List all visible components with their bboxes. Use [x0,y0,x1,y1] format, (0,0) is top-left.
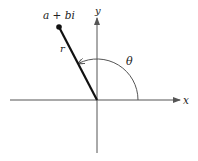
complex-point [56,24,62,30]
y-axis-label: y [94,5,101,16]
radius-label: r [60,43,66,54]
angle-label: θ [126,55,133,68]
complex-plane-diagram: a + bi r θ y x [0,0,198,161]
point-label: a + bi [43,9,75,21]
x-axis-label: x [183,94,189,106]
radius-segment [59,27,97,100]
